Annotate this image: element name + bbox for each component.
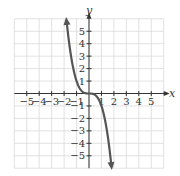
y-tick-label: 5 <box>79 26 85 37</box>
cubic-function-graph: −5−4−3−2−112345−5−4−3−2−112345 x y <box>0 0 180 176</box>
y-tick-label: −3 <box>70 125 85 136</box>
y-tick-label: 3 <box>79 51 85 62</box>
y-tick-label: −2 <box>70 113 85 124</box>
y-tick-label: 2 <box>79 63 85 74</box>
y-tick-label: 1 <box>79 76 85 87</box>
y-tick-label: −4 <box>70 138 85 149</box>
x-tick-label: 4 <box>136 96 142 107</box>
curve-arrow-up-icon <box>64 17 71 25</box>
y-tick-label: −5 <box>70 150 85 161</box>
curve-arrow-down-icon <box>108 162 115 170</box>
x-tick-label: 3 <box>123 96 129 107</box>
x-tick-label: 5 <box>148 96 154 107</box>
x-tick-label: 2 <box>111 96 117 107</box>
axes <box>14 13 169 168</box>
x-axis-label: x <box>169 87 176 100</box>
y-axis-label: y <box>85 4 93 17</box>
y-tick-label: −1 <box>70 100 85 111</box>
y-tick-label: 4 <box>79 38 85 49</box>
